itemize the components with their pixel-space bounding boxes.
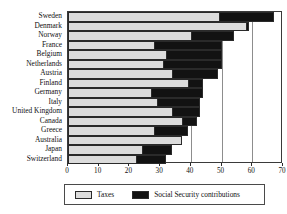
category-label: United Kingdom xyxy=(12,106,62,116)
plot-area xyxy=(67,11,282,163)
category-label: Switzerland xyxy=(27,154,62,164)
bar-segment-ssc xyxy=(219,12,274,22)
category-label: Finland xyxy=(39,78,62,88)
x-tick-label: 50 xyxy=(217,167,224,176)
bar-row xyxy=(68,50,222,60)
x-tick-label: 70 xyxy=(278,167,285,176)
bar-segment-taxes xyxy=(68,145,142,155)
x-tick xyxy=(221,163,222,166)
category-label: Sweden xyxy=(39,11,62,21)
bar-row xyxy=(68,88,203,98)
x-tick xyxy=(98,163,99,166)
chart-legend: Taxes Social Security contributions xyxy=(64,184,265,205)
stacked-bar-chart: SwedenDenmarkNorwayFranceBelgiumNetherla… xyxy=(0,0,287,214)
bar-row xyxy=(68,126,188,136)
legend-item-social-security-contributions: Social Security contributions xyxy=(132,190,240,199)
category-label: Australia xyxy=(35,135,62,145)
bar-segment-taxes xyxy=(68,117,182,127)
legend-label-social-security-contributions: Social Security contributions xyxy=(154,190,240,199)
bar-segment-taxes xyxy=(68,107,172,117)
bar-segment-ssc xyxy=(172,107,200,117)
x-tick xyxy=(67,163,68,166)
bar-segment-taxes xyxy=(68,31,191,41)
bar-row xyxy=(68,31,234,41)
category-label: Belgium xyxy=(37,49,62,59)
bar-row xyxy=(68,145,172,155)
x-tick xyxy=(282,163,283,166)
x-tick xyxy=(128,163,129,166)
x-tick-label: 10 xyxy=(94,167,101,176)
bar-row xyxy=(68,69,218,79)
x-axis: 010203040506070 xyxy=(67,163,282,179)
category-label: Norway xyxy=(38,30,62,40)
light-gray-swatch-icon xyxy=(75,191,92,199)
x-tick-label: 20 xyxy=(125,167,132,176)
bar-row xyxy=(68,60,222,70)
x-tick-label: 60 xyxy=(248,167,255,176)
bar-segment-taxes xyxy=(68,136,182,146)
bar-segment-ssc xyxy=(172,69,218,79)
category-label: Japan xyxy=(45,144,62,154)
x-tick-label: 30 xyxy=(156,167,163,176)
bar-row xyxy=(68,79,203,89)
bar-segment-ssc xyxy=(151,88,203,98)
bar-segment-taxes xyxy=(68,126,154,136)
bar-row xyxy=(68,98,200,108)
category-label: Denmark xyxy=(35,21,63,31)
bar-segment-ssc xyxy=(163,60,221,70)
category-label: Italy xyxy=(48,97,62,107)
bar-segment-ssc xyxy=(154,126,188,136)
bar-row xyxy=(68,107,200,117)
bar-segment-taxes xyxy=(68,79,188,89)
bar-segment-taxes xyxy=(68,50,166,60)
y-axis-category-labels: SwedenDenmarkNorwayFranceBelgiumNetherla… xyxy=(0,11,65,163)
bar-row xyxy=(68,12,274,22)
bar-segment-ssc xyxy=(191,31,234,41)
bar-row xyxy=(68,22,249,32)
bar-segment-ssc xyxy=(154,41,222,51)
bar-segment-ssc xyxy=(142,145,173,155)
bar-segment-ssc xyxy=(182,117,197,127)
x-tick xyxy=(251,163,252,166)
bar-row xyxy=(68,136,182,146)
legend-label-taxes: Taxes xyxy=(97,190,114,199)
bar-segment-ssc xyxy=(188,79,203,89)
bar-row xyxy=(68,117,197,127)
category-label: France xyxy=(42,40,62,50)
black-swatch-icon xyxy=(132,191,149,199)
x-tick xyxy=(159,163,160,166)
category-label: Canada xyxy=(40,116,62,126)
x-tick xyxy=(190,163,191,166)
bar-segment-taxes xyxy=(68,88,151,98)
bar-segment-ssc xyxy=(157,98,200,108)
category-label: Austria xyxy=(40,68,62,78)
category-label: Germany xyxy=(35,87,63,97)
legend-item-taxes: Taxes xyxy=(75,190,114,199)
bar-segment-ssc xyxy=(246,22,249,32)
bar-segment-taxes xyxy=(68,22,246,32)
bar-segment-taxes xyxy=(68,12,219,22)
x-tick-label: 0 xyxy=(65,167,69,176)
bar-segment-taxes xyxy=(68,41,154,51)
category-label: Netherlands xyxy=(26,59,62,69)
bar-rows xyxy=(68,12,281,162)
bar-row xyxy=(68,41,222,51)
bar-segment-taxes xyxy=(68,98,157,108)
x-tick-label: 40 xyxy=(186,167,193,176)
category-label: Greece xyxy=(41,125,62,135)
bar-segment-ssc xyxy=(166,50,221,60)
bar-segment-taxes xyxy=(68,60,163,70)
bar-segment-taxes xyxy=(68,69,172,79)
